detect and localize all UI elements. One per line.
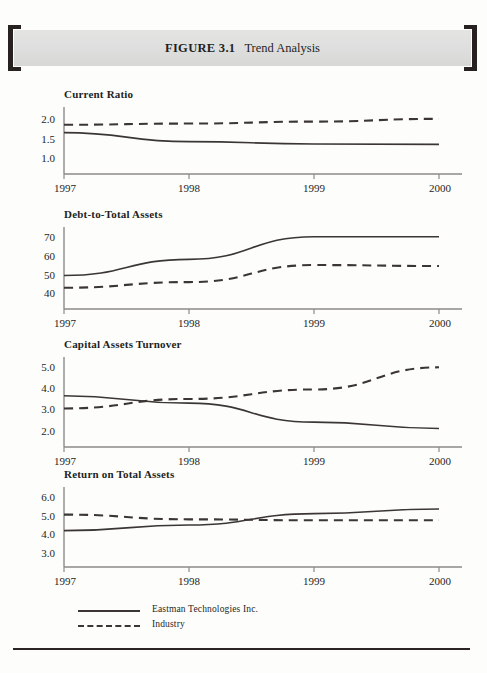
series-line-solid bbox=[64, 133, 439, 145]
y-tick-label: 6.0 bbox=[41, 491, 55, 503]
x-tick-label: 1999 bbox=[303, 575, 326, 587]
plot-area: 2.03.04.05.01997199819992000 bbox=[0, 351, 487, 469]
figure-title: FIGURE 3.1 Trend Analysis bbox=[14, 30, 471, 66]
y-tick-label: 4.0 bbox=[41, 382, 55, 394]
bottom-rule bbox=[13, 648, 470, 650]
chart-title: Current Ratio bbox=[64, 88, 133, 100]
plot-area: 405060701997199819992000 bbox=[0, 221, 487, 331]
x-tick-label: 1998 bbox=[178, 575, 201, 587]
y-tick-label: 60 bbox=[44, 250, 56, 262]
x-tick-label: 1998 bbox=[178, 317, 201, 329]
y-tick-label: 40 bbox=[44, 287, 56, 299]
series-line-dashed bbox=[64, 367, 439, 408]
x-tick-label: 1998 bbox=[178, 455, 201, 467]
figure-number: FIGURE 3.1 bbox=[165, 41, 235, 56]
x-tick-label: 2000 bbox=[429, 575, 452, 587]
x-tick-label: 2000 bbox=[429, 182, 452, 194]
x-tick-label: 2000 bbox=[429, 317, 452, 329]
plot-area: 3.04.05.06.01997199819992000 bbox=[0, 481, 487, 589]
y-tick-label: 50 bbox=[44, 269, 56, 281]
legend-item: Eastman Technologies Inc. bbox=[78, 604, 378, 619]
legend-swatch-dashed bbox=[78, 625, 140, 627]
y-tick-label: 2.0 bbox=[41, 425, 55, 437]
figure-caption: Trend Analysis bbox=[244, 41, 320, 56]
y-tick-label: 1.5 bbox=[41, 133, 55, 145]
series-line-solid bbox=[64, 237, 439, 276]
x-tick-label: 1997 bbox=[54, 575, 77, 587]
x-tick-label: 1999 bbox=[303, 317, 326, 329]
y-tick-label: 2.0 bbox=[41, 113, 55, 125]
figure-header: FIGURE 3.1 Trend Analysis bbox=[14, 30, 471, 66]
series-line-dashed bbox=[64, 515, 439, 521]
figure-page: FIGURE 3.1 Trend Analysis Current Ratio1… bbox=[0, 0, 487, 673]
legend-item: Industry bbox=[78, 619, 378, 634]
plot-area: 1.01.52.01997199819992000 bbox=[0, 101, 487, 196]
x-tick-label: 1999 bbox=[303, 182, 326, 194]
x-tick-label: 1997 bbox=[54, 455, 77, 467]
chart-legend: Eastman Technologies Inc.Industry bbox=[78, 604, 378, 634]
x-tick-label: 1997 bbox=[54, 317, 77, 329]
y-tick-label: 5.0 bbox=[41, 361, 55, 373]
y-tick-label: 3.0 bbox=[41, 547, 55, 559]
x-tick-label: 1998 bbox=[178, 182, 201, 194]
y-tick-label: 70 bbox=[44, 231, 56, 243]
x-tick-label: 1997 bbox=[54, 182, 77, 194]
chart-title: Capital Assets Turnover bbox=[64, 338, 182, 350]
x-tick-label: 1999 bbox=[303, 455, 326, 467]
x-tick-label: 2000 bbox=[429, 455, 452, 467]
series-line-dashed bbox=[64, 119, 439, 125]
y-tick-label: 1.0 bbox=[41, 152, 55, 164]
legend-label: Industry bbox=[152, 619, 185, 629]
y-tick-label: 4.0 bbox=[41, 528, 55, 540]
y-tick-label: 5.0 bbox=[41, 510, 55, 522]
legend-swatch-solid bbox=[78, 610, 140, 612]
y-tick-label: 3.0 bbox=[41, 403, 55, 415]
chart-title: Return on Total Assets bbox=[64, 468, 174, 480]
chart-title: Debt-to-Total Assets bbox=[64, 208, 163, 220]
series-line-solid bbox=[64, 396, 439, 429]
legend-label: Eastman Technologies Inc. bbox=[152, 604, 258, 614]
